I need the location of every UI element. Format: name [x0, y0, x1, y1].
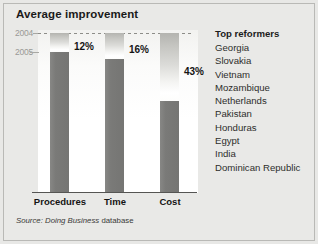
x-axis-line: [32, 192, 197, 193]
bar-value-procedures: 12%: [74, 41, 94, 52]
bar-category-procedures: Procedures: [30, 196, 90, 207]
source-publication: Doing Business: [45, 216, 99, 225]
bar-value-cost: 43%: [184, 66, 204, 77]
chart-title: Average improvement: [16, 8, 138, 20]
bar-procedures: [50, 52, 69, 192]
bar-glow-procedures: [50, 33, 69, 52]
bar-value-time: 16%: [129, 44, 149, 55]
top-reformers-title: Top reformers: [215, 28, 300, 39]
list-item: Slovakia: [215, 54, 300, 67]
list-item: Dominican Republic: [215, 161, 300, 174]
list-item: India: [215, 147, 300, 160]
bar-category-cost: Cost: [140, 196, 200, 207]
bar-time: [105, 59, 124, 192]
list-item: Mozambique: [215, 81, 300, 94]
axis-tick-label-2004: 2004: [15, 28, 33, 38]
source-suffix: database: [101, 216, 133, 225]
bar-glow-time: [105, 33, 124, 59]
source-prefix: Source:: [16, 216, 43, 225]
list-item: Netherlands: [215, 94, 300, 107]
top-reformers-panel: Top reformers Georgia Slovakia Vietnam M…: [215, 28, 300, 174]
list-item: Pakistan: [215, 107, 300, 120]
axis-tick-mark-2005: [30, 52, 39, 53]
source-note: Source: Doing Business database: [16, 216, 134, 225]
list-item: Egypt: [215, 134, 300, 147]
list-item: Honduras: [215, 121, 300, 134]
bar-category-time: Time: [85, 196, 145, 207]
bar-cost: [160, 101, 179, 192]
figure-container: Average improvement 2004 2005 12% Proced…: [0, 0, 318, 244]
list-item: Vietnam: [215, 68, 300, 81]
list-item: Georgia: [215, 41, 300, 54]
bar-glow-cost: [160, 33, 179, 101]
